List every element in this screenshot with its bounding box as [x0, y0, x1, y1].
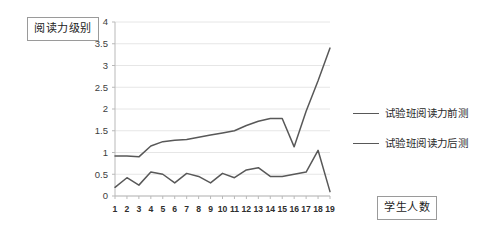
svg-text:13: 13 [254, 204, 264, 214]
y-axis-title: 阅读力级别 [27, 17, 99, 41]
svg-text:6: 6 [172, 204, 177, 214]
legend-label-post-test: 试验班阅读力后测 [385, 138, 468, 149]
svg-text:4: 4 [148, 204, 153, 214]
svg-text:3: 3 [103, 60, 108, 71]
svg-text:2: 2 [103, 103, 108, 114]
svg-text:2: 2 [125, 204, 130, 214]
x-axis-title: 学生人数 [377, 196, 437, 220]
legend-item-post-test: 试验班阅读力后测 [353, 138, 468, 149]
legend-item-pre-test: 试验班阅读力前测 [353, 108, 468, 119]
svg-text:12: 12 [242, 204, 252, 214]
grid-lines [115, 22, 330, 196]
svg-text:16: 16 [289, 204, 299, 214]
svg-text:9: 9 [208, 204, 213, 214]
svg-text:1.5: 1.5 [95, 125, 108, 136]
svg-text:7: 7 [184, 204, 189, 214]
svg-text:15: 15 [277, 204, 287, 214]
svg-text:5: 5 [160, 204, 165, 214]
legend-swatch-post-test [353, 143, 379, 144]
svg-text:3: 3 [136, 204, 141, 214]
svg-text:17: 17 [301, 204, 311, 214]
svg-text:19: 19 [325, 204, 335, 214]
legend-label-pre-test: 试验班阅读力前测 [385, 108, 468, 119]
svg-text:2.5: 2.5 [95, 82, 108, 93]
svg-text:0: 0 [103, 190, 108, 201]
svg-text:10: 10 [218, 204, 228, 214]
y-tick-labels: 00.511.522.533.54 [95, 16, 115, 201]
series-line-pre-test [115, 150, 330, 191]
x-tick-labels: 12345678910111213141516171819 [113, 196, 335, 214]
legend-swatch-pre-test [353, 113, 379, 114]
svg-text:8: 8 [196, 204, 201, 214]
chart-figure: 阅读力级别 学生人数 00.511.522.533.54 12345678910… [0, 0, 489, 238]
svg-text:1: 1 [113, 204, 118, 214]
svg-text:0.5: 0.5 [95, 169, 108, 180]
svg-text:18: 18 [313, 204, 323, 214]
data-series-group [115, 48, 330, 192]
svg-text:1: 1 [103, 147, 108, 158]
svg-text:14: 14 [265, 204, 275, 214]
series-line-post-test [115, 48, 330, 157]
svg-text:11: 11 [230, 204, 239, 214]
svg-text:4: 4 [103, 16, 108, 27]
